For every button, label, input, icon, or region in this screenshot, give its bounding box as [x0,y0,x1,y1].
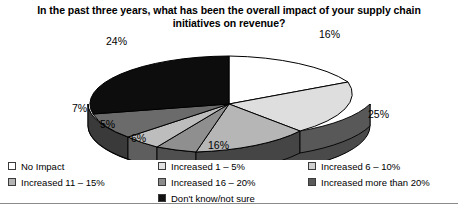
legend-item-no-impact[interactable]: No Impact [8,159,158,173]
legend-swatch-increased-6-10 [308,162,316,170]
legend-swatch-dont-know [158,194,166,202]
legend-column-2: Increased 1 – 5% Increased 16 – 20% Don'… [158,159,308,207]
bottom-divider [0,203,458,204]
legend-label-no-impact: No Impact [21,161,64,172]
pie-label-no-impact: 16% [319,28,340,40]
legend-item-increased-11-15[interactable]: Increased 11 – 15% [8,175,158,189]
legend-swatch-increased-11-15 [8,178,16,186]
legend-swatch-increased-more-20 [308,178,316,186]
legend-label-increased-more-20: Increased more than 20% [321,177,430,188]
legend-item-increased-1-5[interactable]: Increased 1 – 5% [158,159,308,173]
pie-label-increased-16-20: 5% [100,118,115,130]
pie-chart-area: 16% 25% 16% 6% 5% 7% 24% [0,26,458,160]
legend-label-increased-11-15: Increased 11 – 15% [21,177,105,188]
legend-swatch-no-impact [8,162,16,170]
pie-slice-dont-know [90,56,229,114]
legend-item-increased-6-10[interactable]: Increased 6 – 10% [308,159,458,173]
chart-legend: No Impact Increased 11 – 15% Increased 1… [0,159,458,201]
legend-column-3: Increased 6 – 10% Increased more than 20… [308,159,458,191]
legend-swatch-increased-16-20 [158,178,166,186]
pie-label-increased-1-5: 25% [368,108,389,120]
legend-item-increased-16-20[interactable]: Increased 16 – 20% [158,175,308,189]
legend-label-increased-16-20: Increased 16 – 20% [171,177,256,188]
legend-label-increased-1-5: Increased 1 – 5% [171,161,245,172]
legend-item-increased-more-20[interactable]: Increased more than 20% [308,175,458,189]
chart-page: In the past three years, what has been t… [0,0,458,211]
pie-label-increased-6-10: 16% [208,139,229,151]
pie-label-dont-know: 24% [106,35,127,47]
pie-label-increased-11-15: 6% [131,132,146,144]
legend-label-dont-know: Don't know/not sure [171,193,255,204]
legend-swatch-increased-1-5 [158,162,166,170]
legend-column-1: No Impact Increased 11 – 15% [8,159,158,191]
pie-label-increased-more-20: 7% [72,102,87,114]
legend-label-increased-6-10: Increased 6 – 10% [321,161,400,172]
